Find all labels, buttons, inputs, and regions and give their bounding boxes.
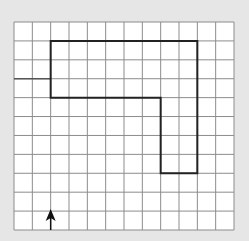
grid-diagram [0,0,249,241]
